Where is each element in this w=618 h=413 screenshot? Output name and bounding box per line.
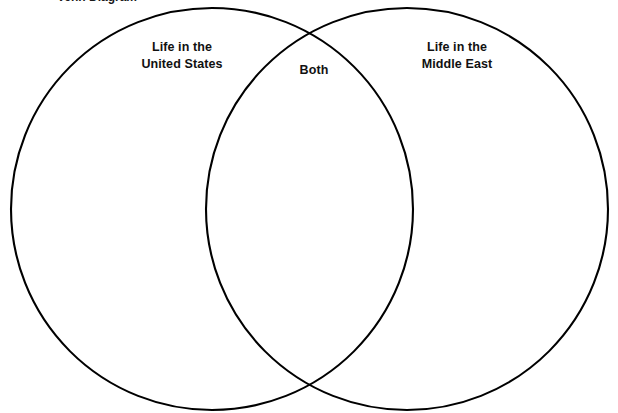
right-set-label: Life in the Middle East xyxy=(385,39,529,73)
left-set-label: Life in the United States xyxy=(112,39,252,73)
intersection-label-line1: Both xyxy=(272,62,356,79)
right-set-label-line2: Middle East xyxy=(385,56,529,73)
venn-diagram-canvas: Venn Diagram Life in the United States B… xyxy=(0,0,618,413)
intersection-label: Both xyxy=(272,62,356,79)
left-set-label-line1: Life in the xyxy=(112,39,252,56)
right-set-label-line1: Life in the xyxy=(385,39,529,56)
left-set-label-line2: United States xyxy=(112,56,252,73)
